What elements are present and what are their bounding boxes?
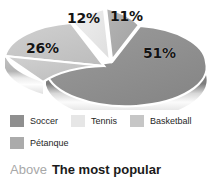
legend-swatch-soccer <box>10 115 24 127</box>
pie-label-soccer: 51% <box>143 45 176 61</box>
legend-item-basketball: Basketball <box>130 115 192 127</box>
caption-text: The most popular <box>52 162 161 177</box>
legend-row: Pétanque <box>0 132 219 154</box>
legend-swatch-petanque <box>10 137 24 149</box>
legend-row: Soccer Tennis Basketball <box>0 110 219 132</box>
legend-swatch-basketball <box>130 115 144 127</box>
figure-caption: Above The most popular <box>10 162 219 179</box>
legend-label-basketball: Basketball <box>150 116 192 126</box>
caption-lead-word: Above <box>10 162 47 177</box>
legend-label-soccer: Soccer <box>30 116 58 126</box>
legend-label-petanque: Pétanque <box>30 138 69 148</box>
chart-legend: Soccer Tennis Basketball Pétanque <box>0 110 219 154</box>
pie-chart-figure: 51% 26% 12% 11% <box>0 0 219 110</box>
legend-swatch-tennis <box>71 115 85 127</box>
legend-item-petanque: Pétanque <box>10 137 69 149</box>
pie-label-tennis: 12% <box>67 10 100 26</box>
legend-item-tennis: Tennis <box>71 115 117 127</box>
legend-label-tennis: Tennis <box>91 116 117 126</box>
pie-label-basketball: 26% <box>26 40 59 56</box>
legend-item-soccer: Soccer <box>10 115 58 127</box>
pie-label-petanque: 11% <box>110 8 143 24</box>
